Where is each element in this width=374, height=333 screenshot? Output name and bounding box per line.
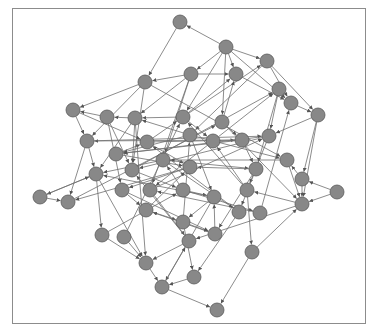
graph-node [260,54,274,68]
graph-node [232,205,246,219]
graph-node [208,227,222,241]
graph-node [33,190,47,204]
graph-node [272,82,286,96]
graph-edge [127,194,140,205]
graph-node [184,67,198,81]
graph-node [330,185,344,199]
graph-edge [46,177,89,194]
graph-node [187,270,201,284]
graph-edge [187,53,222,111]
graph-edge [228,54,233,67]
graph-edge [198,218,235,271]
graph-node [183,128,197,142]
graph-node [109,147,123,161]
graph-node [219,40,233,54]
graph-edge [142,117,176,118]
graph-edge [276,118,312,133]
graph-node [295,197,309,211]
graph-node [295,172,309,186]
graph-node [215,115,229,129]
node-layer [33,15,344,317]
graph-node [262,129,276,143]
graph-edge [47,198,61,200]
network-graph [0,0,374,333]
graph-node [240,183,254,197]
graph-node [128,111,142,125]
graph-node [235,133,249,147]
graph-node [138,75,152,89]
graph-edge [70,148,85,195]
graph-edge [214,204,215,227]
graph-node [176,215,190,229]
graph-edge [80,112,100,116]
graph-edge [170,161,249,169]
graph-edge [97,181,102,228]
graph-node [183,160,197,174]
graph-edge [153,244,183,259]
graph-node [100,110,114,124]
graph-node [311,108,325,122]
graph-node [155,280,169,294]
graph-node [89,167,103,181]
graph-edge [129,242,142,257]
graph-node [253,206,267,220]
graph-edge [233,49,260,58]
graph-edge [227,127,236,135]
graph-node [139,203,153,217]
graph-node [229,67,243,81]
graph-edge [197,51,221,69]
graph-edge [184,142,190,215]
graph-edge [166,247,186,280]
graph-node [156,153,170,167]
graph-node [206,134,220,148]
graph-edge [80,85,138,108]
graph-node [249,162,263,176]
graph-edge [190,224,208,231]
graph-edge [221,258,249,304]
graph-node [139,256,153,270]
graph-node [95,228,109,242]
graph-node [176,110,190,124]
graph-node [280,153,294,167]
graph-edge [89,148,94,167]
graph-node [66,103,80,117]
graph-edge [189,201,209,217]
graph-node [173,15,187,29]
graph-edge [152,75,184,81]
graph-edge [150,269,158,281]
graph-edge [169,279,187,285]
graph-node [210,303,224,317]
graph-node [117,230,131,244]
graph-edge [76,116,84,134]
graph-node [182,234,196,248]
graph-edge [271,96,278,129]
graph-node [143,183,157,197]
graph-edge [187,26,220,44]
graph-edge [168,290,210,307]
graph-edge [292,166,298,174]
graph-edge [188,79,230,113]
graph-node [140,135,154,149]
graph-node [61,195,75,209]
graph-edge [297,106,311,112]
graph-edge [254,192,295,202]
graph-edge [304,122,316,172]
graph-node [207,190,221,204]
graph-edge [309,182,330,190]
graph-edge [149,28,177,75]
graph-edge [309,194,330,201]
graph-node [115,183,129,197]
graph-node [80,134,94,148]
graph-node [284,96,298,110]
graph-node [245,245,259,259]
graph-node [176,183,190,197]
graph-node [125,163,139,177]
